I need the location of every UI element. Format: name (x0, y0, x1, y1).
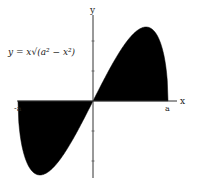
x-tick-label-neg-a: -a (14, 104, 22, 113)
equation-label: y = x√(a² − x²) (8, 47, 75, 57)
x-axis-label: x (180, 96, 185, 106)
plot-area: y x -a a (0, 0, 197, 182)
x-tick-label-a: a (165, 104, 170, 113)
y-axis-label: y (89, 5, 96, 15)
